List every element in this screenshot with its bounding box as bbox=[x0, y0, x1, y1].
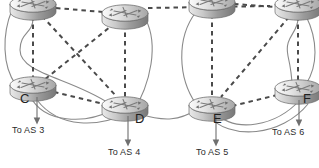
network-diagram-canvas: C D E F To AS 3 To AS 4 To AS 5 To AS 6 bbox=[0, 0, 319, 168]
as-label-to-as-3: To AS 3 bbox=[12, 126, 44, 135]
as-label-to-as-4: To AS 4 bbox=[108, 148, 140, 157]
router-topleft[interactable] bbox=[10, 0, 56, 20]
ibgp-g-c bbox=[44, 23, 115, 80]
physical-links-group bbox=[5, 10, 315, 132]
ibgp-topleft-g bbox=[56, 8, 103, 12]
router-topright[interactable] bbox=[189, 0, 235, 18]
router-c[interactable] bbox=[10, 77, 56, 101]
router-g[interactable] bbox=[102, 5, 148, 29]
physical-link-topright2-f bbox=[306, 16, 315, 84]
router-topright-2[interactable] bbox=[275, 0, 319, 20]
router-f[interactable] bbox=[275, 80, 319, 104]
as-label-to-as-5: To AS 5 bbox=[196, 148, 228, 157]
router-label-f: F bbox=[303, 92, 311, 105]
physical-link-topright2-f-inner bbox=[287, 18, 298, 86]
as-arrows-group bbox=[37, 97, 299, 143]
physical-link-topleft-c bbox=[5, 10, 16, 85]
physical-link-topright-e bbox=[182, 12, 196, 104]
router-e[interactable] bbox=[189, 97, 235, 121]
as-label-to-as-6: To AS 6 bbox=[272, 128, 304, 137]
ibgp-c-d bbox=[54, 92, 104, 104]
routers-group bbox=[10, 0, 319, 121]
ibgp-e-f bbox=[232, 95, 277, 106]
ibgp-sessions-group bbox=[33, 4, 298, 106]
topology-svg bbox=[0, 0, 319, 168]
router-label-d: D bbox=[135, 112, 144, 125]
router-label-c: C bbox=[20, 92, 29, 105]
physical-link-d-e bbox=[140, 110, 196, 119]
router-label-e: E bbox=[213, 112, 222, 125]
